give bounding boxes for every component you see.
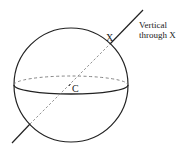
label-vertical-line2: through X (139, 30, 176, 40)
label-point-x: X (106, 32, 114, 43)
label-center-c: C (72, 83, 79, 94)
label-vertical-line1: Vertical (139, 20, 167, 30)
sphere-outline (14, 28, 128, 142)
vertical-line-lower (12, 124, 30, 143)
sphere-diagram: X C Vertical through X (0, 0, 191, 154)
equator-back-dashed (14, 76, 128, 85)
equator-front (14, 85, 128, 94)
